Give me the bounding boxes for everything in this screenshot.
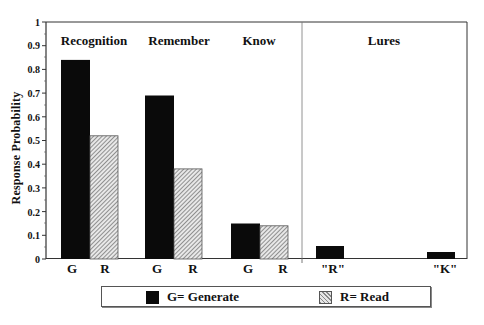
legend-label-generate: G= Generate xyxy=(167,289,239,305)
bar-remember-read xyxy=(174,169,202,259)
legend: G= Generate R= Read xyxy=(101,286,431,307)
bar-lures-k xyxy=(427,252,455,259)
bar-remember-generate xyxy=(145,96,174,260)
legend-label-read: R= Read xyxy=(340,289,389,305)
x-label-lure-r: "R" xyxy=(321,261,345,277)
x-label-lure-k: "K" xyxy=(433,261,458,277)
group-label-recognition: Recognition xyxy=(61,33,127,49)
bar-know-read xyxy=(260,226,288,259)
group-label-remember: Remember xyxy=(148,33,209,49)
legend-item-read: R= Read xyxy=(319,289,389,305)
x-label-r: R xyxy=(188,261,197,277)
group-label-know: Know xyxy=(242,33,275,49)
generate-swatch-icon xyxy=(146,291,159,304)
group-label-lures: Lures xyxy=(368,33,400,49)
read-swatch-icon xyxy=(319,291,332,304)
bar-lures-r xyxy=(316,246,344,259)
x-label-r: R xyxy=(278,261,287,277)
x-label-r: R xyxy=(100,261,109,277)
x-label-g: G xyxy=(243,261,253,277)
x-label-g: G xyxy=(152,261,162,277)
legend-item-generate: G= Generate xyxy=(146,289,239,305)
x-label-g: G xyxy=(67,261,77,277)
bar-know-generate xyxy=(231,224,260,260)
bar-recognition-generate xyxy=(61,60,90,259)
bar-recognition-read xyxy=(90,136,118,259)
